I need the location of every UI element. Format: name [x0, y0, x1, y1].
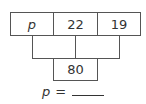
- answer-line: p =: [0, 84, 146, 99]
- pyramid-cell-r1c2: 22: [53, 12, 98, 36]
- pyramid-cell-r1c1: p: [10, 12, 54, 36]
- pyramid-cell-r2c2: [75, 35, 120, 59]
- pyramid-cell-r2c1: [32, 35, 76, 59]
- pyramid-cell-r3c1: 80: [53, 58, 98, 81]
- pyramid-cell-r1c3: 19: [97, 12, 141, 36]
- answer-variable: p: [42, 84, 50, 99]
- answer-blank[interactable]: [72, 85, 104, 96]
- equals-sign: =: [55, 84, 66, 99]
